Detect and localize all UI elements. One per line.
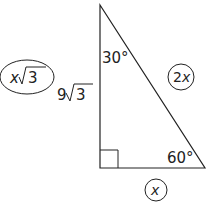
circled-x-root3-ellipse <box>0 60 54 94</box>
coefficient-2: 2x <box>173 69 191 85</box>
coefficient-9: 9 <box>57 86 67 104</box>
radicand-3: 3 <box>76 86 86 104</box>
right-angle-marker <box>100 150 118 168</box>
base-x-label: x <box>150 182 160 198</box>
angle-30-label: 30° <box>102 49 129 67</box>
angle-60-label: 60° <box>167 149 194 167</box>
triangle-diagram: 30° 60° x 3 9 3 2x x <box>0 0 209 209</box>
radicand-3: 3 <box>28 69 38 87</box>
x-variable: x <box>9 69 19 87</box>
